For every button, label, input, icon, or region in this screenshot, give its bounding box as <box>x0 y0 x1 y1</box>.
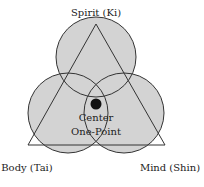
label-spirit: Spirit (Ki) <box>71 8 121 18</box>
label-mind: Mind (Shin) <box>140 163 200 173</box>
label-one-point: One-Point <box>71 127 121 137</box>
label-body: Body (Tai) <box>1 163 52 173</box>
center-dot-icon <box>91 99 102 110</box>
diagram-graphic <box>0 0 204 187</box>
label-center: Center <box>79 113 114 123</box>
venn-triangle-diagram: Spirit (Ki) Center One-Point Body (Tai) … <box>0 0 204 187</box>
